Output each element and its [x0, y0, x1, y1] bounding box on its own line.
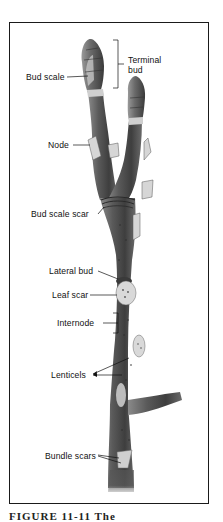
label-bundle-scars: Bundle scars — [45, 451, 96, 461]
label-node: Node — [48, 140, 69, 150]
label-bud-scale: Bud scale — [26, 72, 65, 82]
label-terminal-bud-line2: bud — [128, 65, 143, 75]
label-lateral-bud: Lateral bud — [49, 266, 93, 276]
label-bud-scale-scar: Bud scale scar — [31, 209, 89, 219]
label-terminal-bud-line1: Terminal — [128, 55, 161, 65]
main-stem — [100, 197, 182, 492]
figure-caption: FIGURE 11-11 The — [9, 510, 116, 522]
label-leaf-scar: Leaf scar — [52, 290, 88, 300]
label-internode: Internode — [57, 318, 94, 328]
label-lenticels: Lenticels — [51, 370, 86, 380]
left-branch — [82, 39, 119, 200]
